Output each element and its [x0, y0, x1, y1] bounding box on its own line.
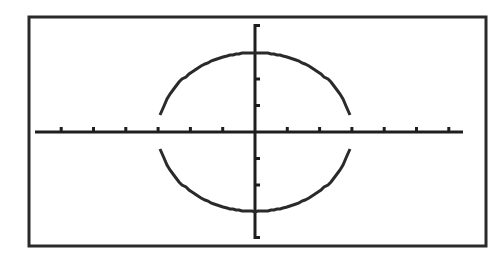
x-tick [318, 127, 321, 131]
x-tick [92, 127, 95, 131]
x-tick [383, 127, 386, 131]
y-axis-end-tick [256, 236, 260, 239]
x-tick [124, 127, 127, 131]
x-tick [60, 127, 63, 131]
x-tick [286, 127, 289, 131]
x-tick [415, 127, 418, 131]
y-tick [256, 104, 260, 107]
y-tick [256, 78, 260, 81]
x-tick [350, 127, 353, 131]
y-axis-end-tick [256, 24, 260, 27]
x-tick [221, 127, 224, 131]
y-tick [256, 184, 260, 187]
y-tick [256, 157, 260, 160]
x-tick [189, 127, 192, 131]
axes [35, 24, 463, 239]
x-tick [157, 127, 160, 131]
graph-screen [0, 0, 503, 257]
x-tick [447, 127, 450, 131]
